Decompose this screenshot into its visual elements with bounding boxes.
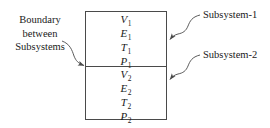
boundary-annotation: Boundary between Subsystems xyxy=(2,13,78,54)
subsystem2-annotation: Subsystem-2 xyxy=(203,50,257,61)
subsystem1-variable-stack: V1 E1 T1 P1 xyxy=(85,13,167,69)
variable-V2: V2 xyxy=(121,68,132,82)
variable-P2: P2 xyxy=(121,110,132,124)
variable-P1: P1 xyxy=(121,55,132,69)
boundary-annotation-line-2: between xyxy=(2,27,78,41)
subsystem-diagram: V1 E1 T1 P1 V2 E2 T2 P2 Boundary between… xyxy=(0,0,270,128)
subsystem1-annotation: Subsystem-1 xyxy=(203,10,257,21)
boundary-annotation-line-3: Subsystems xyxy=(2,40,78,54)
variable-T1: T1 xyxy=(121,41,131,55)
subsystem1-leader-line xyxy=(170,15,200,40)
variable-V1: V1 xyxy=(121,13,132,27)
variable-E1: E1 xyxy=(121,27,132,41)
variable-E2: E2 xyxy=(121,82,132,96)
boundary-annotation-line-1: Boundary xyxy=(2,13,78,27)
subsystem2-leader-line xyxy=(170,55,200,80)
variable-T2: T2 xyxy=(121,96,131,110)
subsystem2-variable-stack: V2 E2 T2 P2 xyxy=(85,68,167,124)
